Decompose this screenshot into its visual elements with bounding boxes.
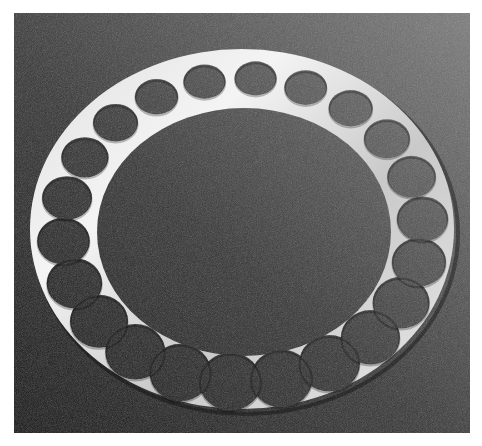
product-photo bbox=[14, 13, 470, 433]
metal-ring bbox=[14, 13, 470, 433]
